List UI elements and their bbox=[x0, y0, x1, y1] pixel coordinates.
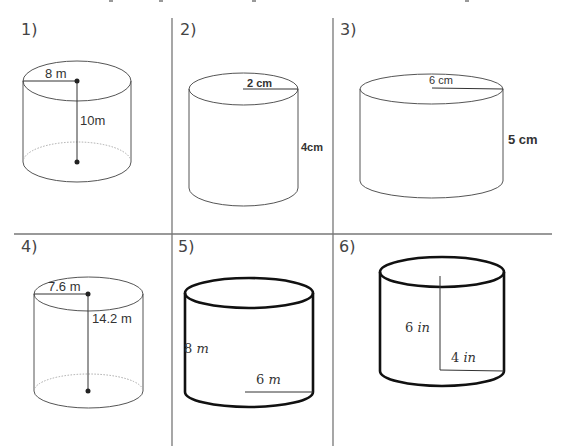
cylinder-1-bottom-center-dot bbox=[75, 160, 80, 165]
cylinder-5-radius-value: 6 bbox=[256, 372, 264, 387]
cylinder-2-base-front bbox=[189, 188, 298, 206]
cylinder-6-height-value: 6 bbox=[405, 320, 413, 335]
problem-1-number: 1) bbox=[21, 20, 37, 39]
cylinder-4-top-center-dot bbox=[86, 292, 91, 297]
cylinder-2-radius-label: 2 cm bbox=[247, 77, 272, 89]
cylinder-2-height-label: 4cm bbox=[301, 141, 323, 153]
diagram-svg bbox=[0, 0, 563, 446]
problem-4-number: 4) bbox=[21, 237, 37, 256]
cylinder-6-radius-line bbox=[440, 370, 504, 371]
cylinder-1-radius-label: 8 m bbox=[45, 66, 67, 81]
cylinder-6-radius-unit: in bbox=[463, 350, 476, 365]
cylinder-5-height-unit: m bbox=[196, 341, 208, 356]
grid-lines bbox=[14, 18, 552, 446]
cylinder-3-base-front bbox=[360, 181, 503, 198]
cylinder-6-figure bbox=[380, 257, 504, 386]
problem-3-number: 3) bbox=[340, 20, 356, 39]
cylinder-1-figure bbox=[23, 61, 131, 182]
cylinder-6-height-label: 6 in bbox=[405, 320, 430, 335]
cylinder-3-radius-line bbox=[432, 88, 503, 89]
cylinder-4-radius-label: 7.6 m bbox=[48, 279, 81, 294]
problem-2-number: 2) bbox=[180, 20, 196, 39]
cylinder-3-height-label: 5 cm bbox=[508, 132, 538, 147]
cylinder-5-height-value: 8 bbox=[184, 341, 192, 356]
cylinder-5-top-ellipse bbox=[185, 278, 313, 308]
cylinder-worksheet: 1) 2) 3) 4) 5) 6) 8 m 10m 2 cm 4cm 6 cm … bbox=[0, 0, 563, 446]
cylinder-6-base-front bbox=[380, 371, 504, 386]
cylinder-4-figure bbox=[34, 277, 143, 408]
cylinder-1-base-front bbox=[23, 162, 131, 182]
cylinder-3-figure bbox=[360, 74, 503, 198]
cylinder-2-figure bbox=[189, 73, 298, 206]
problem-5-number: 5) bbox=[178, 237, 194, 256]
cylinder-6-radius-value: 4 bbox=[451, 350, 459, 365]
cylinder-3-radius-label: 6 cm bbox=[429, 74, 453, 86]
cylinder-5-radius-unit: m bbox=[268, 372, 280, 387]
cylinder-6-radius-label: 4 in bbox=[451, 350, 476, 365]
cylinder-4-height-label: 14.2 m bbox=[92, 311, 132, 326]
cylinder-5-base-front bbox=[185, 392, 313, 407]
cylinder-4-base-front bbox=[34, 391, 143, 408]
cylinder-6-top-ellipse bbox=[380, 257, 504, 287]
cylinder-1-top-center-dot bbox=[75, 79, 80, 84]
cylinder-4-bottom-center-dot bbox=[86, 389, 91, 394]
cylinder-5-radius-label: 6 m bbox=[256, 372, 281, 387]
cylinder-1-height-label: 10m bbox=[80, 113, 105, 128]
cylinder-5-height-label: 8 m bbox=[184, 341, 209, 356]
problem-6-number: 6) bbox=[339, 237, 355, 256]
cylinder-6-height-unit: in bbox=[417, 320, 430, 335]
